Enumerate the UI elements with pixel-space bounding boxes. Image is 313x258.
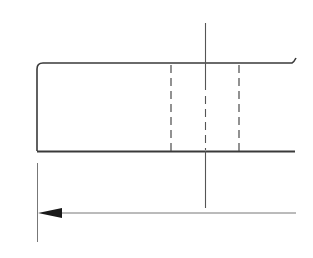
arrowhead-icon — [38, 208, 62, 218]
part-top-edge — [37, 58, 296, 151]
technical-drawing — [0, 0, 313, 258]
